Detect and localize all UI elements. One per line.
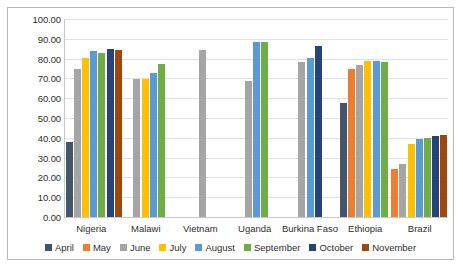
legend-item[interactable]: August	[195, 242, 235, 253]
x-axis-category-label: Nigeria	[64, 220, 119, 236]
y-axis-tick-label: 40.00	[14, 132, 61, 143]
legend-label: July	[169, 242, 186, 253]
legend-swatch-icon	[362, 244, 369, 251]
bar[interactable]	[348, 69, 355, 218]
legend-label: September	[254, 242, 300, 253]
y-axis-tick-label: 80.00	[14, 53, 61, 64]
y-axis-tick-label: 70.00	[14, 73, 61, 84]
bar[interactable]	[356, 65, 363, 217]
legend-label: May	[93, 242, 111, 253]
bar-group	[122, 19, 176, 217]
y-axis-tick-label: 50.00	[14, 113, 61, 124]
legend-swatch-icon	[45, 244, 52, 251]
bar[interactable]	[373, 61, 380, 217]
legend-item[interactable]: May	[83, 242, 111, 253]
legend-item[interactable]: July	[159, 242, 186, 253]
legend-item[interactable]: June	[120, 242, 151, 253]
bar[interactable]	[115, 50, 122, 217]
bar[interactable]	[432, 136, 439, 217]
chart-plot-wrapper: 100.0090.0080.0070.0060.0050.0040.0030.0…	[8, 8, 453, 259]
bar[interactable]	[245, 81, 252, 217]
bar[interactable]	[416, 139, 423, 217]
bar-group	[283, 19, 337, 217]
y-axis-tick-label: 0.00	[14, 212, 61, 223]
bar[interactable]	[150, 73, 157, 217]
x-axis-category-label: Uganda	[228, 220, 283, 236]
bar[interactable]	[98, 53, 105, 217]
bar-group	[230, 19, 284, 217]
bar-group	[337, 19, 391, 217]
bar[interactable]	[424, 138, 431, 217]
legend-swatch-icon	[83, 244, 90, 251]
bar[interactable]	[90, 51, 97, 217]
y-axis-tick-label: 20.00	[14, 172, 61, 183]
legend-swatch-icon	[159, 244, 166, 251]
chart-legend: AprilMayJuneJulyAugustSeptemberOctoberNo…	[8, 239, 453, 255]
bar[interactable]	[199, 50, 206, 217]
bar-group	[391, 19, 448, 217]
legend-item[interactable]: September	[244, 242, 300, 253]
legend-item[interactable]: April	[45, 242, 74, 253]
bar[interactable]	[391, 169, 398, 218]
legend-swatch-icon	[195, 244, 202, 251]
plot-area	[64, 19, 448, 218]
chart-frame: 100.0090.0080.0070.0060.0050.0040.0030.0…	[7, 7, 454, 260]
bar[interactable]	[298, 62, 305, 217]
x-axis-category-label: Ethiopia	[338, 220, 393, 236]
y-axis-tick-label: 100.00	[14, 14, 61, 25]
y-axis-tick-label: 60.00	[14, 93, 61, 104]
x-axis-category-label: Burkina Faso	[282, 220, 338, 236]
x-axis-category-label: Vietnam	[173, 220, 228, 236]
legend-label: April	[55, 242, 74, 253]
legend-swatch-icon	[120, 244, 127, 251]
legend-swatch-icon	[244, 244, 251, 251]
bar[interactable]	[261, 42, 268, 217]
y-axis-tick-label: 30.00	[14, 152, 61, 163]
bar[interactable]	[364, 61, 371, 217]
bar-group	[65, 19, 122, 217]
legend-item[interactable]: November	[362, 242, 416, 253]
bar[interactable]	[66, 142, 73, 217]
bar[interactable]	[133, 79, 140, 217]
legend-swatch-icon	[309, 244, 316, 251]
bar[interactable]	[74, 69, 81, 218]
legend-label: August	[205, 242, 235, 253]
bar[interactable]	[340, 103, 347, 217]
x-axis: NigeriaMalawiVietnamUgandaBurkina FasoEt…	[64, 220, 447, 236]
bar[interactable]	[315, 46, 322, 217]
legend-label: November	[372, 242, 416, 253]
y-axis-tick-label: 10.00	[14, 192, 61, 203]
legend-label: June	[130, 242, 151, 253]
bar-group	[176, 19, 230, 217]
bar[interactable]	[107, 49, 114, 217]
y-axis-tick-label: 90.00	[14, 33, 61, 44]
bar[interactable]	[440, 135, 447, 217]
y-axis: 100.0090.0080.0070.0060.0050.0040.0030.0…	[14, 19, 61, 217]
bar[interactable]	[82, 58, 89, 217]
bar[interactable]	[253, 42, 260, 217]
legend-label: October	[319, 242, 353, 253]
x-axis-category-label: Malawi	[119, 220, 174, 236]
bar[interactable]	[307, 58, 314, 217]
x-axis-category-label: Brazil	[392, 220, 447, 236]
bar[interactable]	[381, 62, 388, 217]
bar-groups	[65, 19, 448, 217]
bar[interactable]	[399, 164, 406, 217]
bar[interactable]	[408, 144, 415, 217]
bar[interactable]	[142, 79, 149, 217]
bar[interactable]	[158, 64, 165, 217]
legend-item[interactable]: October	[309, 242, 353, 253]
